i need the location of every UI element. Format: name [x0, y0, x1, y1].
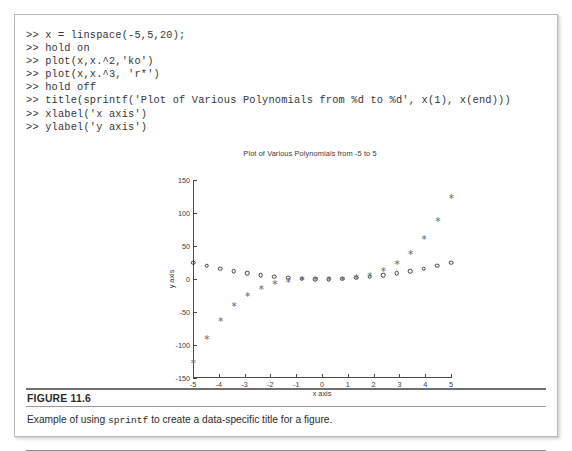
caption-text-after: to create a data-specific title for a fi…	[148, 414, 332, 425]
caption-text-before: Example of using	[27, 414, 108, 425]
data-marker: ∗	[407, 250, 413, 256]
y-axis-label: y axis	[167, 270, 176, 289]
data-marker: ∗	[231, 302, 237, 308]
y-tick	[193, 312, 197, 313]
data-marker	[204, 263, 209, 268]
data-marker: ∗	[367, 272, 373, 278]
data-marker	[272, 274, 277, 279]
code-line: >> x = linspace(-5,5,20);	[26, 29, 546, 42]
x-tick	[245, 374, 246, 378]
data-marker: ∗	[244, 292, 250, 298]
data-marker: ∗	[353, 274, 359, 280]
data-marker: ∗	[394, 260, 400, 266]
data-marker	[381, 273, 386, 278]
y-tick-label: 100	[178, 209, 190, 218]
x-tick	[296, 374, 297, 378]
data-marker	[340, 276, 345, 281]
code-line: >> hold on	[26, 42, 546, 55]
code-line: >> hold off	[26, 81, 546, 94]
x-tick	[348, 374, 349, 378]
data-marker	[394, 271, 399, 276]
y-tick-label: 0	[186, 275, 190, 284]
plot-area: y axis x axis -150-100-50050100150 -5-4-…	[193, 180, 451, 378]
y-tick	[193, 246, 197, 247]
y-tick	[193, 378, 197, 379]
data-marker: ∗	[326, 276, 332, 282]
data-marker	[299, 276, 304, 281]
y-tick-label: 50	[182, 242, 190, 251]
data-marker: ∗	[448, 194, 454, 200]
data-marker: ∗	[285, 278, 291, 284]
x-tick	[374, 374, 375, 378]
data-marker: ∗	[204, 335, 210, 341]
y-tick	[193, 345, 197, 346]
data-marker: ∗	[258, 285, 264, 291]
caption-block: FIGURE 11.6 Example of using sprintf to …	[26, 388, 546, 427]
y-tick	[193, 213, 197, 214]
data-marker	[354, 276, 359, 281]
data-marker	[422, 266, 427, 271]
x-tick	[399, 374, 400, 378]
code-listing: >> x = linspace(-5,5,20); >> hold on >> …	[26, 29, 546, 134]
data-marker	[326, 277, 331, 282]
code-line: >> ylabel('y axis')	[26, 121, 546, 134]
data-marker	[449, 260, 454, 265]
data-marker	[286, 276, 291, 281]
data-marker	[245, 271, 250, 276]
y-tick-label: 150	[178, 176, 190, 185]
data-marker: ∗	[434, 217, 440, 223]
chart-title: Plot of Various Polynomials from -5 to 5	[155, 149, 465, 158]
code-line: >> plot(x,x.^2,'ko')	[26, 55, 546, 68]
data-marker: ∗	[380, 267, 386, 273]
x-tick	[270, 374, 271, 378]
y-tick-label: -50	[180, 308, 190, 317]
data-marker: ∗	[217, 317, 223, 323]
code-line: >> plot(x,x.^3, 'r*')	[26, 68, 546, 81]
data-marker	[435, 263, 440, 268]
x-tick	[425, 374, 426, 378]
data-marker: ∗	[421, 235, 427, 241]
y-tick	[193, 279, 197, 280]
code-line: >> title(sprintf('Plot of Various Polyno…	[26, 94, 546, 107]
data-marker: ∗	[271, 280, 277, 286]
y-tick	[193, 180, 197, 181]
data-marker	[259, 273, 264, 278]
x-tick	[193, 374, 194, 378]
data-marker	[408, 269, 413, 274]
figure-number: FIGURE 11.6	[26, 390, 546, 406]
caption-text: Example of using sprintf to create a dat…	[26, 407, 546, 427]
x-tick	[451, 374, 452, 378]
data-marker: ∗	[312, 276, 318, 282]
figure-panel: >> x = linspace(-5,5,20); >> hold on >> …	[14, 14, 558, 437]
y-tick-label: -100	[176, 341, 190, 350]
caption-code-token: sprintf	[108, 415, 148, 426]
y-tick-label: -150	[176, 374, 190, 383]
data-marker	[218, 266, 223, 271]
chart-figure: Plot of Various Polynomials from -5 to 5…	[155, 149, 465, 396]
code-line: >> xlabel('x axis')	[26, 108, 546, 121]
data-marker: ∗	[299, 276, 305, 282]
data-marker: ∗	[339, 276, 345, 282]
data-marker	[367, 274, 372, 279]
x-tick	[219, 374, 220, 378]
data-marker	[313, 277, 318, 282]
x-tick	[322, 374, 323, 378]
data-marker	[231, 269, 236, 274]
